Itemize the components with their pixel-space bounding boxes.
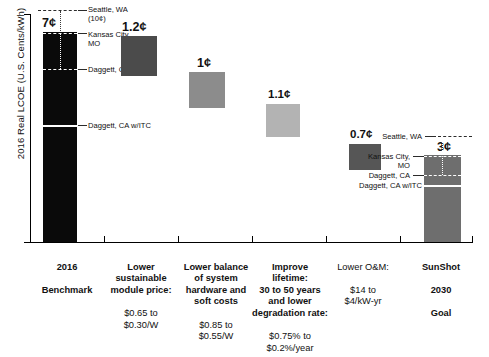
category-head: Lower O&M: xyxy=(326,262,400,274)
category-label-lower-bos: Lower balance of system hardware and sof… xyxy=(176,250,256,354)
marker-label-daggett-itc-right: Daggett, CA w/ITC xyxy=(338,181,422,190)
marker-line-daggett-right xyxy=(424,175,461,176)
category-line-1: 2016 xyxy=(30,262,104,274)
category-detail: $0.65 to $0.30/W xyxy=(104,308,178,331)
x-axis-tick xyxy=(400,236,401,243)
category-line-1: SunShot xyxy=(404,262,478,274)
category-head: Improve lifetime: 30 to 50 years and low… xyxy=(248,262,332,320)
leader-daggett-right xyxy=(413,175,424,176)
bar-value-lower-module-price: 1.2¢ xyxy=(122,20,146,34)
x-axis-tick xyxy=(326,236,327,243)
marker-connector-kansas-left xyxy=(60,33,61,69)
bar-value-2016-benchmark: 7¢ xyxy=(42,16,56,30)
category-head: Lower sustainable module price: xyxy=(104,262,178,297)
leader-daggett-itc-left xyxy=(78,125,87,126)
leader-kansas-left xyxy=(78,33,87,34)
category-detail: $0.75% to $0.2%/year xyxy=(248,331,332,354)
leader-kansas-right xyxy=(413,156,424,157)
category-label-lower-module-price: Lower sustainable module price: $0.65 to… xyxy=(104,250,178,343)
bar-lower-module-price[interactable] xyxy=(121,36,157,76)
category-head: Lower balance of system hardware and sof… xyxy=(176,262,256,308)
marker-label-seattle-right: Seattle, WA xyxy=(370,132,422,141)
bar-value-lower-bos: 1¢ xyxy=(197,56,211,70)
category-detail: $0.85 to $0.55/W xyxy=(176,320,256,343)
marker-line-seattle-right xyxy=(438,136,472,137)
marker-connector-kansas-right xyxy=(442,139,443,175)
x-axis-tick xyxy=(472,236,473,243)
bar-value-sunshot-goal: 3¢ xyxy=(437,140,451,154)
marker-label-daggett-itc-left: Daggett, CA w/ITC xyxy=(88,121,151,130)
category-line-2: 2030 xyxy=(404,285,478,297)
x-axis-tick xyxy=(30,236,31,243)
y-axis-tick xyxy=(24,14,31,15)
x-axis-tick xyxy=(178,236,179,243)
bar-value-improve-lifetime: 1.1¢ xyxy=(268,88,290,100)
leader-daggett-left xyxy=(78,69,87,70)
marker-line-daggett-itc-left xyxy=(43,125,77,127)
y-axis-title: 2016 Real LCOE (U.S. Cents/kWh) xyxy=(15,0,26,184)
category-label-lower-om: Lower O&M: $14 to $4/kW-yr xyxy=(326,250,400,320)
marker-line-daggett-itc-right xyxy=(424,185,461,187)
marker-line-daggett-left xyxy=(43,69,77,70)
y-axis-line xyxy=(30,14,31,242)
marker-connector-seattle-left xyxy=(60,11,61,31)
bar-improve-lifetime[interactable] xyxy=(266,104,300,137)
marker-label-kansas-right: Kansas City, MO xyxy=(358,152,410,170)
category-line-3: Goal xyxy=(404,308,478,320)
category-label-improve-lifetime: Improve lifetime: 30 to 50 years and low… xyxy=(248,250,332,357)
x-axis-tick xyxy=(252,236,253,243)
category-detail: $14 to $4/kW-yr xyxy=(326,285,400,308)
category-label-2016-benchmark: 2016 Benchmark xyxy=(30,250,104,308)
leader-seattle-left xyxy=(78,10,87,11)
marker-label-daggett-right: Daggett, CA xyxy=(358,171,410,180)
category-line-2: Benchmark xyxy=(30,285,104,297)
category-label-sunshot-goal: SunShot 2030 Goal xyxy=(404,250,478,331)
bar-lower-bos[interactable] xyxy=(189,72,225,108)
leader-seattle-right xyxy=(425,136,436,137)
x-axis-tick xyxy=(104,236,105,243)
